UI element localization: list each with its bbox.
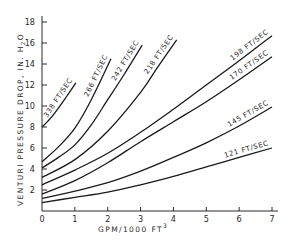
x-tick-label: 0 <box>39 214 44 224</box>
series-label: 242 FT/SEC <box>110 39 141 82</box>
y-tick-label: 8 <box>30 122 35 132</box>
series-label: 266 FT/SEC <box>83 53 110 98</box>
y-tick-label: 10 <box>25 101 35 111</box>
series-line <box>42 148 272 203</box>
x-tick-label: 6 <box>237 214 242 224</box>
x-tick-label: 3 <box>138 214 143 224</box>
y-axis-label-text: VENTURI PRESSURE DROP, IN. H <box>16 45 25 206</box>
series-label: 145 FT/SEC <box>226 99 270 129</box>
y-tick-label: 16 <box>25 38 35 48</box>
x-axis-label-text: GPM/1000 FT <box>98 225 163 234</box>
y-tick-label: 6 <box>30 143 35 153</box>
y-axis-label-suffix: O <box>16 33 25 40</box>
y-tick-label: 14 <box>25 59 35 69</box>
x-tick-label: 7 <box>269 214 274 224</box>
venturi-pressure-drop-chart: 0123456724681012141618 338 FT/SEC266 FT/… <box>0 0 299 245</box>
y-tick-label: 2 <box>30 185 35 195</box>
series-label: 338 FT/SEC <box>42 77 74 120</box>
series-label: 121 FT/SEC <box>223 139 269 159</box>
x-tick-label: 4 <box>171 214 176 224</box>
x-tick-label: 1 <box>72 214 77 224</box>
y-tick-label: 4 <box>30 164 35 174</box>
y-tick-label: 18 <box>25 17 35 27</box>
y-axis-label: VENTURI PRESSURE DROP, IN. H2O <box>16 33 26 206</box>
x-axis-label-superscript: 3 <box>163 222 168 229</box>
x-tick-label: 5 <box>204 214 209 224</box>
y-tick-label: 12 <box>25 80 35 90</box>
curve-labels: 338 FT/SEC266 FT/SEC242 FT/SEC218 FT/SEC… <box>42 28 270 160</box>
series-label: 218 FT/SEC <box>143 33 176 75</box>
x-tick-label: 2 <box>105 214 110 224</box>
